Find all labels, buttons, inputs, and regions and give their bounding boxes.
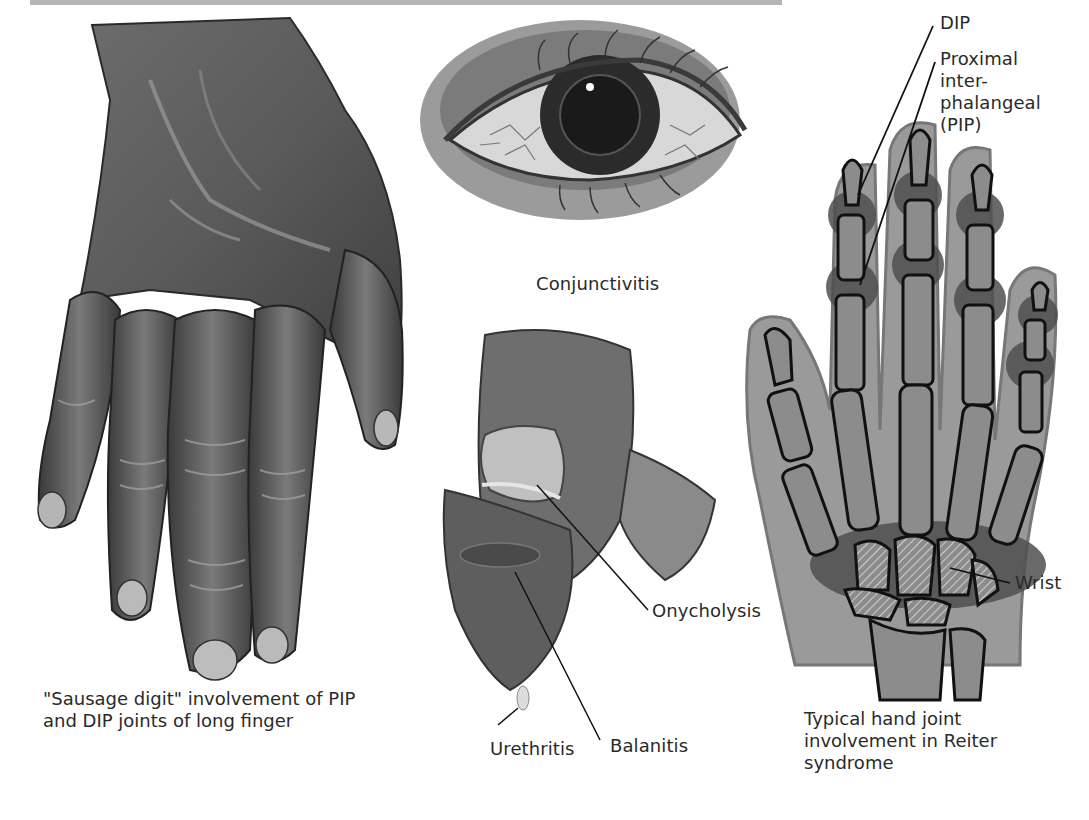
caption-line: and DIP joints of long finger [43, 710, 355, 732]
dip-label: DIP [940, 12, 970, 34]
balanitis-label: Balanitis [610, 735, 688, 757]
swollen-hand-illustration [0, 0, 420, 700]
pip-label-line: Proximal [940, 48, 1041, 70]
urethritis-label: Urethritis [490, 738, 575, 760]
xray-hand-panel: DIP Proximal inter- phalangeal (PIP) Wri… [740, 0, 1089, 820]
pip-label-line: (PIP) [940, 114, 1041, 136]
conjunctivitis-label: Conjunctivitis [536, 273, 659, 295]
genital-nail-panel: Onycholysis Balanitis Urethritis [430, 320, 790, 800]
urethritis-leader-line [498, 708, 518, 725]
caption-line: "Sausage digit" involvement of PIP [43, 688, 355, 710]
caption-line: Typical hand joint [804, 708, 997, 730]
onycholysis-balanitis-illustration [430, 320, 790, 620]
pip-label: Proximal inter- phalangeal (PIP) [940, 48, 1041, 136]
sausage-digit-panel: "Sausage digit" involvement of PIP and D… [0, 0, 420, 780]
caption-line: involvement in Reiter [804, 730, 997, 752]
xray-hand-caption: Typical hand joint involvement in Reiter… [804, 708, 997, 774]
inflamed-eye-illustration [410, 15, 750, 255]
conjunctivitis-panel: Conjunctivitis [410, 15, 750, 315]
pip-label-line: inter- [940, 70, 1041, 92]
caption-line: syndrome [804, 752, 997, 774]
wrist-label: Wrist [1015, 572, 1061, 594]
sausage-digit-caption: "Sausage digit" involvement of PIP and D… [43, 688, 355, 732]
pip-label-line: phalangeal [940, 92, 1041, 114]
